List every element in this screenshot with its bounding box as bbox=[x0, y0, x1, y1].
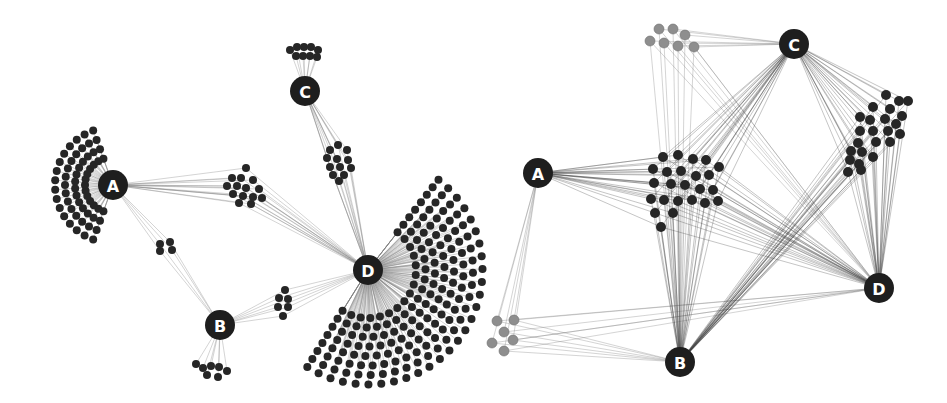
leaf-node bbox=[453, 210, 461, 218]
leaf-node bbox=[62, 173, 70, 181]
leaf-node bbox=[353, 322, 361, 330]
leaf-node bbox=[385, 309, 393, 317]
leaf-node bbox=[446, 217, 454, 225]
leaf-node bbox=[903, 96, 913, 106]
leaf-node bbox=[668, 208, 678, 218]
leaf-node bbox=[701, 155, 711, 165]
leaf-node bbox=[423, 328, 431, 336]
edge-line bbox=[696, 176, 879, 288]
leaf-node bbox=[469, 257, 477, 265]
edge-line bbox=[794, 44, 850, 160]
leaf-node bbox=[398, 335, 406, 343]
leaf-node bbox=[458, 284, 466, 292]
hub-label-c: C bbox=[788, 36, 800, 55]
leaf-node bbox=[649, 178, 659, 188]
leaf-node bbox=[249, 176, 257, 184]
leaf-node bbox=[284, 295, 292, 303]
leaf-node bbox=[438, 311, 446, 319]
leaf-node bbox=[430, 280, 438, 288]
leaf-node bbox=[60, 212, 68, 220]
leaf-node bbox=[465, 293, 473, 301]
leaf-node bbox=[891, 119, 901, 129]
leaf-node bbox=[354, 342, 362, 350]
leaf-node bbox=[333, 155, 341, 163]
leaf-node bbox=[883, 126, 893, 136]
leaf-node bbox=[377, 380, 385, 388]
leaf-node bbox=[89, 236, 97, 244]
leaf-node bbox=[442, 336, 450, 344]
leaf-node bbox=[421, 275, 429, 283]
leaf-node bbox=[450, 267, 458, 275]
leaf-node bbox=[646, 194, 656, 204]
leaf-node bbox=[695, 184, 705, 194]
leaf-node bbox=[403, 364, 411, 372]
leaf-node bbox=[352, 380, 360, 388]
leaf-node bbox=[691, 171, 701, 181]
leaf-node bbox=[357, 361, 365, 369]
leaf-node bbox=[509, 315, 519, 325]
leaf-node bbox=[431, 259, 439, 267]
leaf-node bbox=[228, 174, 236, 182]
network-diagram-canvas: A B C D A B C D bbox=[0, 0, 947, 403]
leaf-node bbox=[708, 185, 718, 195]
leaf-node bbox=[338, 328, 346, 336]
leaf-node bbox=[436, 241, 444, 249]
leaf-node bbox=[399, 221, 407, 229]
edge-line bbox=[879, 134, 900, 288]
leaf-node bbox=[645, 36, 655, 46]
leaf-node bbox=[237, 174, 245, 182]
leaf-node bbox=[235, 199, 243, 207]
leaf-node bbox=[447, 245, 455, 253]
leaf-node bbox=[336, 163, 344, 171]
leaf-node bbox=[343, 319, 351, 327]
edge-line bbox=[333, 175, 368, 270]
leaf-node bbox=[275, 294, 283, 302]
leaf-node bbox=[314, 46, 322, 54]
leaf-node bbox=[380, 331, 388, 339]
leaf-node bbox=[456, 316, 464, 324]
leaf-node bbox=[347, 311, 355, 319]
leaf-node bbox=[689, 42, 699, 52]
edge-line bbox=[504, 351, 680, 362]
leaf-node bbox=[447, 290, 455, 298]
leaf-node bbox=[676, 166, 686, 176]
leaf-node bbox=[279, 312, 287, 320]
leaf-node bbox=[418, 285, 426, 293]
left-network: A B C D bbox=[51, 43, 486, 388]
leaf-node bbox=[339, 378, 347, 386]
leaf-node bbox=[62, 189, 70, 197]
leaf-node bbox=[223, 182, 231, 190]
leaf-node bbox=[425, 238, 433, 246]
leaf-node bbox=[416, 309, 424, 317]
leaf-node bbox=[444, 234, 452, 242]
leaf-node bbox=[369, 333, 377, 341]
leaf-node bbox=[662, 167, 672, 177]
leaf-node bbox=[713, 196, 723, 206]
hub-node-d: D bbox=[864, 273, 894, 303]
leaf-node bbox=[704, 170, 714, 180]
leaf-node bbox=[401, 310, 409, 318]
leaf-node bbox=[499, 346, 509, 356]
leaf-node bbox=[67, 205, 75, 213]
leaf-node bbox=[392, 316, 400, 324]
edge-line bbox=[160, 244, 220, 325]
leaf-node bbox=[431, 269, 439, 277]
leaf-node bbox=[658, 152, 668, 162]
leaf-node bbox=[440, 274, 448, 282]
leaf-node bbox=[418, 245, 426, 253]
leaf-node bbox=[379, 370, 387, 378]
hub-node-b: B bbox=[205, 310, 235, 340]
leaf-node bbox=[414, 369, 422, 377]
leaf-node bbox=[666, 179, 676, 189]
leaf-node bbox=[673, 150, 683, 160]
leaf-node bbox=[390, 378, 398, 386]
leaf-node bbox=[650, 208, 660, 218]
leaf-node bbox=[60, 150, 68, 158]
leaf-node bbox=[433, 214, 441, 222]
leaf-node bbox=[478, 252, 486, 260]
leaf-node bbox=[459, 261, 467, 269]
leaf-node bbox=[323, 331, 331, 339]
leaf-node bbox=[508, 335, 518, 345]
leaf-node bbox=[413, 348, 421, 356]
leaf-node bbox=[446, 200, 454, 208]
